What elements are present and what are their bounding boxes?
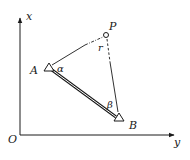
origin-label: O	[8, 133, 17, 146]
point-p-label: P	[108, 20, 117, 33]
angle-alpha-label: α	[57, 63, 64, 74]
intersection-diagram: x y O A α B β P r	[0, 0, 190, 160]
x-axis-label: x	[26, 10, 33, 23]
edge-p-b-dashed	[107, 39, 110, 62]
point-p-circle-icon	[104, 33, 109, 38]
y-axis-label: y	[173, 136, 181, 149]
point-a-label: A	[29, 64, 38, 77]
angle-gamma-label: r	[98, 42, 104, 53]
point-b-label: B	[128, 119, 137, 132]
edge-a-p-solid	[52, 45, 85, 65]
angle-beta-label: β	[106, 99, 113, 110]
